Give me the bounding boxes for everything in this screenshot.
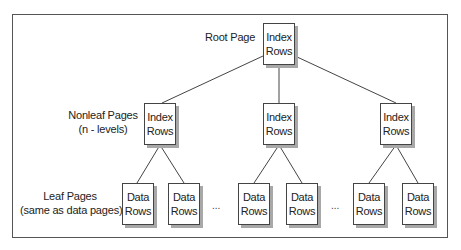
nonleaf-label-line1: Nonleaf Pages xyxy=(68,108,138,122)
leaf-label-line2: (same as data pages) xyxy=(20,203,120,217)
leaf-node: Data Rows xyxy=(238,183,270,225)
root-node: Index Rows xyxy=(263,23,295,65)
nonleaf-node: Index Rows xyxy=(380,103,412,145)
leaf-node: Data Rows xyxy=(286,183,318,225)
nonleaf-pages-label: Nonleaf Pages (n - levels) xyxy=(68,108,138,136)
nonleaf-label-line2: (n - levels) xyxy=(68,122,138,136)
node-text: Rows xyxy=(356,204,382,218)
ellipsis: ... xyxy=(212,200,220,211)
nonleaf-node: Index Rows xyxy=(263,103,295,145)
node-text: Rows xyxy=(289,204,315,218)
node-text: Rows xyxy=(383,124,409,138)
node-text: Index xyxy=(266,30,291,44)
node-text: Rows xyxy=(171,204,197,218)
leaf-label-line1: Leaf Pages xyxy=(20,189,120,203)
node-text: Index xyxy=(147,110,172,124)
node-text: Data xyxy=(127,190,149,204)
node-text: Data xyxy=(407,190,429,204)
leaf-node: Data Rows xyxy=(353,183,385,225)
leaf-node: Data Rows xyxy=(168,183,200,225)
node-text: Rows xyxy=(266,44,292,58)
node-text: Rows xyxy=(125,204,151,218)
node-text: Rows xyxy=(147,124,173,138)
leaf-pages-label: Leaf Pages (same as data pages) xyxy=(20,189,120,217)
leaf-node: Data Rows xyxy=(122,183,154,225)
node-text: Rows xyxy=(241,204,267,218)
leaf-node: Data Rows xyxy=(402,183,434,225)
node-text: Index xyxy=(383,110,408,124)
node-text: Data xyxy=(243,190,265,204)
node-text: Data xyxy=(173,190,195,204)
nonleaf-node: Index Rows xyxy=(144,103,176,145)
node-text: Data xyxy=(291,190,313,204)
node-text: Rows xyxy=(266,124,292,138)
node-text: Data xyxy=(358,190,380,204)
root-page-label: Root Page xyxy=(205,30,255,44)
node-text: Rows xyxy=(405,204,431,218)
node-text: Index xyxy=(266,110,291,124)
ellipsis: ... xyxy=(331,200,339,211)
